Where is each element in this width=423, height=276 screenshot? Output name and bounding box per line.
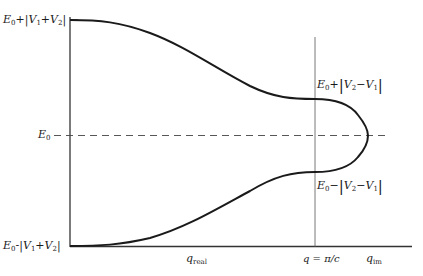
lower-band-curve <box>70 172 315 246</box>
band-diagram <box>0 0 423 276</box>
label-e0: E0 <box>38 129 51 142</box>
label-q-im: qim <box>366 253 382 266</box>
label-q-real: qreal <box>186 253 207 266</box>
label-upper-gap: E0+|V2−V1| <box>317 78 383 93</box>
upper-band-curve <box>70 20 315 99</box>
label-lower-gap: E0−|V2−V1| <box>317 179 383 194</box>
label-bottom-energy: E0-|V1+V2| <box>3 240 61 253</box>
label-top-energy: E0+|V1+V2| <box>3 14 66 27</box>
label-zone-boundary: q = π/c <box>303 254 340 264</box>
